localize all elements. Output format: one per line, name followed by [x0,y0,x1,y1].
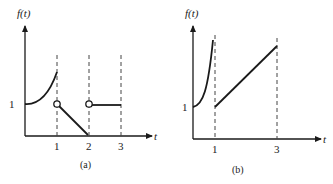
y-tick-1-a: 1 [9,98,15,110]
curve-segment-1-a [25,72,57,104]
line-segment-2-a [59,106,88,135]
panel-b: f(t) t 1 1 3 (b) [182,7,327,176]
y-axis-label-a: f(t) [17,7,31,20]
x-tick-2-a: 2 [86,140,92,152]
x-tick-1-b: 1 [212,143,218,155]
x-axis-label-b: t [323,133,327,145]
open-circle-t2-a [86,101,92,107]
figure-canvas: f(t) t 1 1 2 3 (a) f(t) t 1 1 3 (b) [0,0,333,184]
x-tick-1-a: 1 [54,140,60,152]
caption-a: (a) [80,159,91,171]
y-axis-label-b: f(t) [185,7,199,20]
panel-a: f(t) t 1 1 2 3 (a) [9,7,158,171]
x-axis-label-a: t [154,130,158,142]
line-segment-2-b [215,46,277,107]
open-circle-t1-a [54,101,60,107]
x-tick-3-b: 3 [274,143,280,155]
x-tick-3-a: 3 [118,140,124,152]
y-tick-1-b: 1 [182,101,188,113]
caption-b: (b) [232,164,244,176]
curve-segment-1-b [193,40,213,107]
